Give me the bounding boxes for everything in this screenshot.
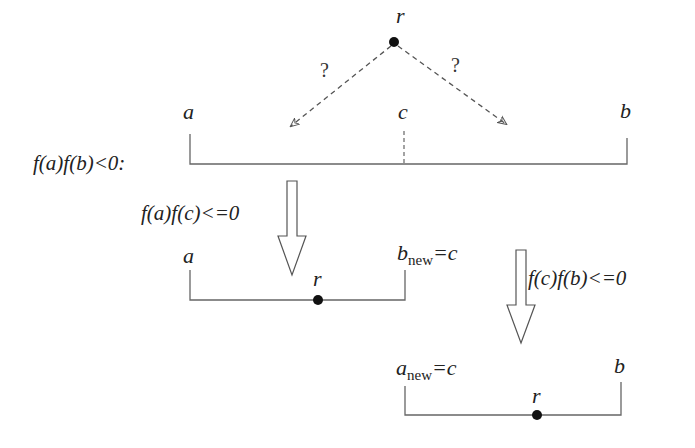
label-b-new: bnew=c [397, 242, 458, 268]
condition-right: f(c)f(b)<=0 [528, 268, 626, 289]
root-label-top: r [396, 5, 405, 27]
root-label-left: r [313, 268, 322, 290]
label-a-new-eq: =c [432, 355, 457, 380]
root-dot-left [313, 295, 323, 305]
condition-left: f(a)f(c)<=0 [141, 203, 239, 224]
interval-right-half [405, 382, 621, 420]
label-b-new-main: b [397, 240, 408, 265]
label-a-initial: a [183, 101, 194, 123]
question-left: ? [320, 60, 329, 80]
condition-initial: f(a)f(b)<0: [33, 153, 125, 174]
bisection-diagram [0, 0, 695, 448]
label-a-new: anew=c [396, 357, 457, 383]
root-dot-top [389, 37, 399, 47]
dashed-arrow-left [291, 46, 391, 126]
label-b-right: b [614, 355, 625, 377]
label-b-initial: b [620, 100, 631, 122]
label-a-left: a [183, 245, 194, 267]
label-a-new-main: a [396, 355, 407, 380]
interval-right-half-line [405, 382, 621, 415]
down-arrow-right [507, 250, 535, 343]
root-label-right: r [532, 385, 541, 407]
interval-initial [190, 131, 627, 164]
interval-left-half-line [190, 270, 405, 300]
label-c-initial: c [398, 101, 408, 123]
question-right: ? [451, 55, 460, 75]
root-dot-right [532, 410, 542, 420]
interval-initial-line [190, 134, 627, 164]
interval-left-half [190, 270, 405, 305]
label-a-new-sub: new [407, 367, 432, 383]
label-b-new-eq: =c [433, 240, 458, 265]
down-arrow-left [278, 181, 306, 275]
label-b-new-sub: new [408, 252, 433, 268]
